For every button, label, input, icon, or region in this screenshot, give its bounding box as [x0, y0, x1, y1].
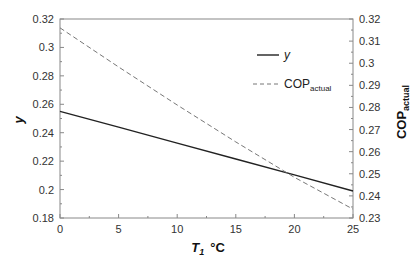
y2-tick-label: 0.32 — [359, 13, 380, 25]
y2-tick-label: 0.23 — [359, 212, 380, 224]
y-tick-label: 0.28 — [33, 70, 54, 82]
series-line-cop-actual — [60, 28, 353, 209]
x-axis-ticks: 0510152025 — [57, 214, 359, 235]
y-tick-label: 0.3 — [39, 41, 54, 53]
y2-tick-label: 0.24 — [359, 190, 380, 202]
y-tick-label: 0.24 — [33, 127, 54, 139]
y-tick-label: 0.2 — [39, 184, 54, 196]
x-tick-label: 0 — [57, 223, 63, 235]
x-tick-label: 25 — [347, 223, 359, 235]
y-tick-label: 0.32 — [33, 13, 54, 25]
plot-frame — [60, 19, 353, 218]
y2-tick-label: 0.25 — [359, 168, 380, 180]
x-tick-label: 20 — [288, 223, 300, 235]
chart: 0510152025 0.180.20.220.240.260.280.30.3… — [0, 0, 417, 263]
x-tick-label: 5 — [116, 223, 122, 235]
series-group — [60, 28, 353, 209]
x-axis-title: T1°C — [191, 240, 225, 257]
y-tick-label: 0.18 — [33, 212, 54, 224]
y-axis-title: y — [11, 116, 26, 125]
plot-border — [60, 19, 353, 218]
y-tick-label: 0.26 — [33, 98, 54, 110]
y2-axis-ticks: 0.230.240.250.260.270.280.290.30.310.32 — [349, 13, 380, 224]
series-line-y — [60, 111, 353, 191]
legend: y COPactual — [253, 48, 332, 93]
y2-axis-title: COPactual — [394, 85, 411, 139]
y2-tick-label: 0.27 — [359, 124, 380, 136]
y2-tick-label: 0.31 — [359, 35, 380, 47]
legend-label-y: y — [283, 48, 291, 62]
y-tick-label: 0.22 — [33, 155, 54, 167]
y2-tick-label: 0.29 — [359, 79, 380, 91]
y-axis-ticks: 0.180.20.220.240.260.280.30.32 — [33, 13, 64, 224]
legend-label-cop: COPactual — [284, 77, 332, 93]
x-tick-label: 10 — [171, 223, 183, 235]
y2-tick-label: 0.26 — [359, 146, 380, 158]
y2-tick-label: 0.28 — [359, 101, 380, 113]
y2-tick-label: 0.3 — [359, 57, 374, 69]
x-tick-label: 15 — [230, 223, 242, 235]
